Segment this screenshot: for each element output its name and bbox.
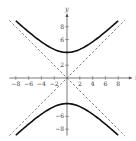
x-tick-label: −8 (11, 80, 20, 87)
y-tick-label: 8 (60, 23, 64, 30)
axes: xy (9, 5, 136, 136)
x-tick-label: 4 (91, 80, 95, 87)
axis-ticks: −8−6−4−22468862−6−8 (11, 23, 120, 132)
y-tick-label: 6 (60, 36, 64, 43)
y-axis-label: y (64, 5, 69, 13)
hyperbola-graph: xy −8−6−4−22468862−6−8 (0, 0, 136, 141)
x-axis-arrow-icon (129, 76, 133, 79)
y-tick-label: −8 (55, 125, 64, 132)
x-axis-label: x (135, 74, 136, 82)
y-tick-label: −6 (55, 112, 64, 119)
x-tick-label: −6 (24, 80, 33, 87)
x-tick-label: 6 (103, 80, 107, 87)
x-tick-label: 8 (116, 80, 120, 87)
x-tick-label: 2 (78, 80, 82, 87)
y-axis-arrow-icon (65, 13, 68, 17)
y-tick-label: 2 (60, 61, 64, 68)
x-tick-label: −4 (37, 80, 46, 87)
x-tick-label: −2 (50, 80, 59, 87)
